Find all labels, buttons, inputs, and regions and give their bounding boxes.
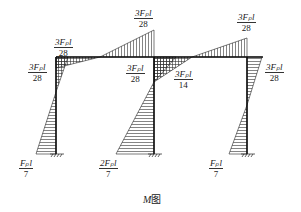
column-3-moment [229,57,262,154]
label-beam-mid-bottom: 3Fₚl28 [126,63,145,84]
label-col2-base: 2Fₚl7 [99,158,118,179]
diagram-caption: M图 [143,191,161,206]
label-col2-top: 3Fₚl14 [174,69,193,90]
label-col3-top: 3Fₚl28 [265,62,284,83]
label-col3-base: Fₚl7 [209,158,223,179]
label-beam-mid-top: 3Fₚl28 [134,8,153,29]
label-col1-top: 3Fₚl28 [28,62,47,83]
label-beam-right-top: 3Fₚl28 [237,12,256,33]
moment-diagram-canvas [0,0,301,212]
label-beam-left-top: 3Fₚl28 [54,37,73,58]
label-col1-base: Fₚl7 [19,158,33,179]
fixed-support-icons [50,154,255,157]
